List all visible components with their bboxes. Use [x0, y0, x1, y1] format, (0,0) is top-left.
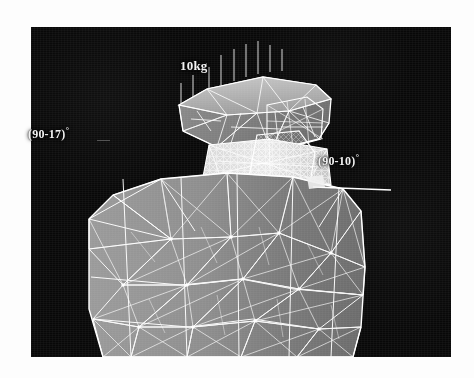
figure-root: 10kg (90-10)° (90-17)°: [0, 0, 474, 378]
angle-label-left: (90-17)°: [28, 125, 69, 142]
fem-render-plate: 10kg (90-10)°: [31, 27, 451, 357]
lower-body-block: [89, 173, 365, 357]
fem-mesh-graphic: [31, 27, 451, 357]
load-label: 10kg: [180, 58, 208, 74]
degree-symbol-left: °: [65, 125, 69, 135]
angle-label-right: (90-10)°: [318, 152, 359, 169]
leader-line-left: [97, 140, 110, 141]
degree-symbol-right: °: [355, 152, 359, 162]
reference-line-right: [307, 175, 391, 190]
